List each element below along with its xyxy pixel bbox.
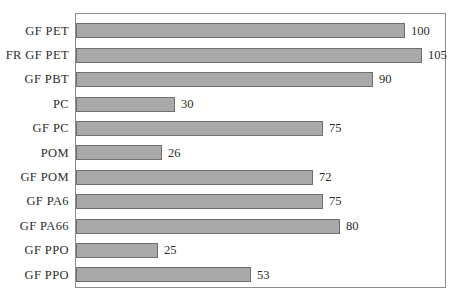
bar-chart: GF PET100FR GF PET105GF PBT90PC30GF PC75… <box>0 0 458 305</box>
category-label: GF PC <box>0 122 69 135</box>
category-label: FR GF PET <box>0 49 69 62</box>
bar <box>76 170 313 185</box>
category-label: POM <box>0 147 69 160</box>
bar-value-label: 26 <box>168 147 181 160</box>
bar <box>76 121 323 136</box>
bar-container: 26 <box>76 141 181 165</box>
category-label: GF PET <box>0 25 69 38</box>
bar-value-label: 100 <box>411 25 430 38</box>
category-label: GF PA6 <box>0 195 69 208</box>
bar-value-label: 75 <box>329 122 342 135</box>
bar <box>76 243 158 258</box>
bar-container: 30 <box>76 92 194 116</box>
bar <box>76 267 251 282</box>
bar-value-label: 105 <box>428 49 447 62</box>
bar-row: GF PPO25 <box>0 238 458 262</box>
bar <box>76 23 405 38</box>
bar-container: 53 <box>76 263 270 287</box>
bar-container: 75 <box>76 116 342 140</box>
bar-container: 72 <box>76 165 332 189</box>
bar-value-label: 30 <box>181 98 194 111</box>
category-label: GF PBT <box>0 73 69 86</box>
bar <box>76 72 373 87</box>
category-label: GF PPO <box>0 269 69 282</box>
bar-row: GF PA6680 <box>0 214 458 238</box>
bar-container: 75 <box>76 189 342 213</box>
bar-row: GF PET100 <box>0 19 458 43</box>
bar-value-label: 75 <box>329 195 342 208</box>
bar-container: 25 <box>76 238 177 262</box>
bar <box>76 97 175 112</box>
bar-value-label: 72 <box>319 171 332 184</box>
bar <box>76 48 422 63</box>
bar-row: FR GF PET105 <box>0 43 458 67</box>
category-label: GF PA66 <box>0 220 69 233</box>
bar-value-label: 80 <box>346 220 359 233</box>
bar <box>76 194 323 209</box>
bar-row: GF PBT90 <box>0 67 458 91</box>
bar-value-label: 25 <box>164 244 177 257</box>
category-label: GF POM <box>0 171 69 184</box>
bar-container: 100 <box>76 19 430 43</box>
bar-row: PC30 <box>0 92 458 116</box>
bar-value-label: 53 <box>257 269 270 282</box>
bar-row: GF PC75 <box>0 116 458 140</box>
bar-row: GF PA675 <box>0 189 458 213</box>
bar-container: 80 <box>76 214 359 238</box>
category-label: PC <box>0 98 69 111</box>
bar-row: POM26 <box>0 141 458 165</box>
bar-row: GF PPO53 <box>0 263 458 287</box>
bar-container: 105 <box>76 43 447 67</box>
bar-value-label: 90 <box>379 73 392 86</box>
bar-row: GF POM72 <box>0 165 458 189</box>
bar-container: 90 <box>76 67 392 91</box>
bar <box>76 219 340 234</box>
category-label: GF PPO <box>0 244 69 257</box>
bar <box>76 145 162 160</box>
bar-rows: GF PET100FR GF PET105GF PBT90PC30GF PC75… <box>0 13 458 288</box>
